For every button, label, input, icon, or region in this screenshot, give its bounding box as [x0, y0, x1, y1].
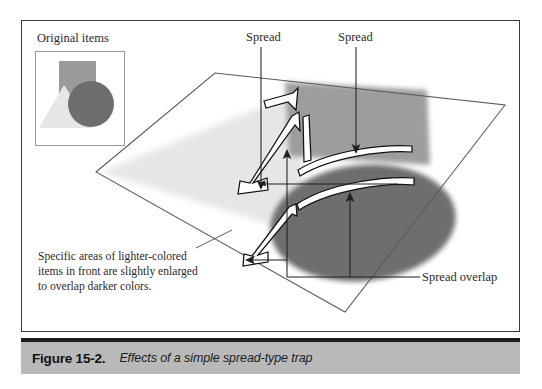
original-items-box: [35, 51, 125, 146]
original-items-artwork: [36, 52, 124, 145]
figure-caption-bar: Figure 15-2. Effects of a simple spread-…: [21, 338, 520, 374]
label-spread-right: Spread: [338, 30, 373, 45]
label-spread-overlap: Spread overlap: [422, 270, 497, 285]
figure-container: Original items Spread Spread Spread over…: [0, 0, 542, 389]
figure-number: Figure 15-2.: [32, 351, 105, 366]
inset-circle: [68, 81, 114, 127]
note-paragraph: Specific areas of lighter-colored items …: [38, 250, 198, 294]
inset-title: Original items: [37, 31, 109, 46]
label-spread-left: Spread: [246, 30, 281, 45]
figure-caption-text: Effects of a simple spread-type trap: [119, 351, 312, 365]
